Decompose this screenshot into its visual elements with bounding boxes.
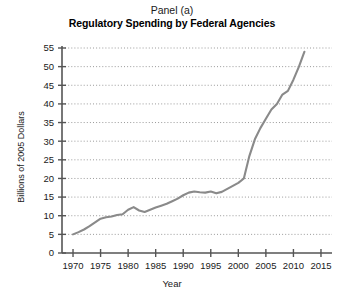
y-axis-label: Billions of 2005 Dollars bbox=[16, 92, 26, 222]
y-tick-label: 55 bbox=[43, 42, 54, 53]
y-tick-label: 35 bbox=[43, 117, 54, 128]
x-axis-label: Year bbox=[0, 278, 344, 289]
y-tick-label: 0 bbox=[49, 247, 54, 258]
y-tick-label: 40 bbox=[43, 98, 54, 109]
y-tick-label: 20 bbox=[43, 173, 54, 184]
plot-area: 0510152025303540455055 19701975198019851… bbox=[0, 0, 344, 300]
x-tick-label: 2015 bbox=[310, 260, 331, 271]
gridlines-group bbox=[62, 48, 332, 234]
x-tick-label: 1970 bbox=[62, 260, 83, 271]
y-tick-label: 25 bbox=[43, 154, 54, 165]
y-tick-label: 10 bbox=[43, 210, 54, 221]
y-tick-label: 50 bbox=[43, 61, 54, 72]
x-tick-label: 2005 bbox=[255, 260, 276, 271]
y-tick-label: 15 bbox=[43, 191, 54, 202]
x-tick-label: 2010 bbox=[283, 260, 304, 271]
y-tick-label: 30 bbox=[43, 136, 54, 147]
data-series-line bbox=[73, 52, 304, 235]
x-tick-label: 1980 bbox=[118, 260, 139, 271]
chart-figure: Panel (a) Regulatory Spending by Federal… bbox=[0, 0, 344, 300]
x-tick-label: 1995 bbox=[200, 260, 221, 271]
x-tick-label: 1975 bbox=[90, 260, 111, 271]
y-tick-label: 45 bbox=[43, 80, 54, 91]
x-tick-label: 2000 bbox=[228, 260, 249, 271]
x-tick-label: 1985 bbox=[145, 260, 166, 271]
y-tick-label: 5 bbox=[49, 229, 54, 240]
x-tick-label: 1990 bbox=[173, 260, 194, 271]
